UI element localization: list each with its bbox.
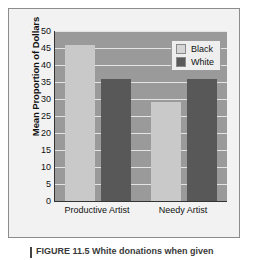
- y-tick-mark: [54, 150, 55, 151]
- black-swatch-icon: [176, 44, 186, 54]
- x-axis-label: Productive Artist: [64, 205, 129, 215]
- y-tick-label: 0: [46, 196, 51, 206]
- legend-entry-white: White: [176, 57, 214, 67]
- chart-figure-card: Mean Proportion of Dollars 5045403530252…: [8, 8, 240, 238]
- white-swatch-icon: [176, 57, 186, 67]
- x-axis-category-labels: Productive ArtistNeedy Artist: [54, 205, 227, 221]
- y-tick-label: 10: [41, 162, 51, 172]
- bar-white-productive-artist: [101, 79, 131, 201]
- y-tick-label: 5: [46, 179, 51, 189]
- y-tick-label: 50: [41, 26, 51, 36]
- y-tick-label: 25: [41, 111, 51, 121]
- y-tick-mark: [54, 48, 55, 49]
- y-tick-mark: [54, 133, 55, 134]
- y-tick-label: 30: [41, 94, 51, 104]
- y-tick-label: 20: [41, 128, 51, 138]
- y-tick-mark: [54, 31, 55, 32]
- legend-entry-black: Black: [176, 44, 214, 54]
- y-tick-label: 45: [41, 43, 51, 53]
- y-tick-label: 35: [41, 77, 51, 87]
- y-tick-label: 15: [41, 145, 51, 155]
- y-tick-mark: [54, 167, 55, 168]
- legend-label-white: White: [191, 57, 214, 67]
- y-tick-mark: [54, 65, 55, 66]
- figure-caption: FIGURE 11.5 White donations when given: [8, 247, 248, 260]
- x-axis-label: Needy Artist: [159, 205, 208, 215]
- y-tick-mark: [54, 184, 55, 185]
- y-tick-mark: [54, 82, 55, 83]
- chart-legend[interactable]: Black White: [171, 40, 221, 71]
- bar-black-productive-artist: [65, 45, 95, 201]
- bar-black-needy-artist: [151, 102, 181, 201]
- plot-area: Black White: [54, 31, 227, 202]
- bar-white-needy-artist: [187, 79, 217, 201]
- caption-text: FIGURE 11.5 White donations when given: [36, 247, 214, 256]
- legend-label-black: Black: [191, 44, 213, 54]
- figure-root: Mean Proportion of Dollars 5045403530252…: [0, 0, 255, 260]
- y-axis-tick-labels: 50454035302520151050: [31, 31, 51, 201]
- y-tick-label: 40: [41, 60, 51, 70]
- caption-rule: [30, 247, 32, 258]
- y-tick-mark: [54, 99, 55, 100]
- y-tick-mark: [54, 200, 55, 201]
- y-tick-mark: [54, 116, 55, 117]
